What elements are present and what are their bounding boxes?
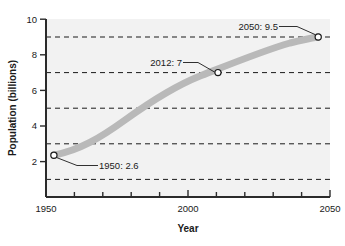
y-tick-label-2: 2 (32, 156, 37, 167)
y-tick-label-10: 10 (26, 14, 37, 25)
x-tick-label-2000: 2000 (177, 203, 198, 214)
marker-1950 (51, 152, 57, 158)
y-axis-title: Population (billions) (7, 60, 18, 156)
annotation-2050: 2050: 9.5 (238, 21, 278, 32)
y-tick-label-4: 4 (32, 120, 37, 131)
population-growth-chart: 10 8 6 4 2 1950 2000 2050 Year Populatio… (0, 0, 345, 246)
annotation-2012: 2012: 7 (150, 57, 182, 68)
y-tick-label-6: 6 (32, 85, 37, 96)
x-tick-label-1950: 1950 (35, 203, 56, 214)
y-tick-label-8: 8 (32, 49, 37, 60)
marker-2012 (215, 70, 221, 76)
annotation-1950: 1950: 2.6 (99, 160, 139, 171)
chart-canvas: 10 8 6 4 2 1950 2000 2050 Year Populatio… (0, 0, 345, 246)
marker-2050 (315, 34, 321, 40)
x-tick-label-2050: 2050 (319, 203, 340, 214)
x-axis-title: Year (177, 223, 198, 234)
